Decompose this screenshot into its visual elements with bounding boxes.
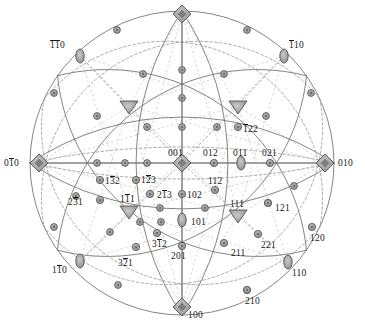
- two-fold-symbol: [237, 156, 245, 170]
- pole-label-201: 201: [171, 251, 186, 261]
- pole-marker-unlabeled-3[interactable]: [308, 90, 315, 97]
- pole-marker-112[interactable]: [211, 186, 218, 193]
- general-pole-core: [135, 179, 138, 182]
- three-fold-symbol: [120, 101, 138, 114]
- pole-marker-unlabeled-10[interactable]: [179, 124, 186, 131]
- miller-digit: 2: [218, 176, 223, 186]
- miller-digit: 0: [255, 296, 260, 306]
- pole-marker-unlabeled-24[interactable]: [291, 183, 298, 190]
- miller-digit: 1: [289, 40, 294, 50]
- pole-marker-021[interactable]: [266, 159, 273, 166]
- pole-marker-unlabeled-18[interactable]: [158, 219, 165, 226]
- pole-marker-unlabeled-9[interactable]: [179, 95, 186, 102]
- pole-marker-120[interactable]: [308, 223, 315, 230]
- general-pole-core: [293, 185, 296, 188]
- pole-marker-unlabeled-2[interactable]: [51, 90, 58, 97]
- general-pole-core: [223, 242, 226, 245]
- pole-marker--1-11[interactable]: [120, 101, 138, 114]
- zone-fan-3-1: [129, 106, 325, 163]
- miller-digit: 2: [146, 175, 151, 185]
- pole-marker-1-11[interactable]: [120, 206, 138, 219]
- pole-marker-201[interactable]: [178, 242, 185, 249]
- pole-marker-1-32[interactable]: [96, 176, 103, 183]
- general-pole-core: [213, 162, 216, 165]
- general-pole-core: [146, 126, 149, 129]
- pole-marker-unlabeled-4[interactable]: [94, 113, 101, 120]
- pole-marker-unlabeled-6[interactable]: [140, 71, 147, 78]
- miller-digit: 1: [241, 248, 246, 258]
- general-pole-core: [96, 115, 99, 118]
- pole-marker-unlabeled-7[interactable]: [221, 71, 228, 78]
- pole-label-102: 102: [187, 190, 202, 200]
- general-pole-core: [116, 29, 119, 32]
- pole-marker-010[interactable]: [316, 154, 334, 172]
- miller-digit: 1: [201, 217, 206, 227]
- miller-digit: 0: [198, 310, 203, 320]
- pole-marker-2-31[interactable]: [96, 196, 103, 203]
- miller-digit: 1: [55, 40, 60, 50]
- miller-digit: 1: [128, 258, 133, 268]
- two-fold-symbol: [280, 49, 288, 63]
- general-pole-core: [156, 232, 159, 235]
- pole-marker-unlabeled-20[interactable]: [107, 229, 114, 236]
- pole-marker-211[interactable]: [220, 239, 227, 246]
- pole-marker-3-21[interactable]: [132, 243, 139, 250]
- pole-label--1-10: 110: [50, 40, 65, 50]
- pole-marker-unlabeled-14[interactable]: [144, 160, 151, 167]
- pole-marker--122[interactable]: [234, 123, 241, 130]
- pole-marker-1-23[interactable]: [132, 176, 139, 183]
- pole-marker-unlabeled-19[interactable]: [51, 224, 58, 231]
- pole-marker-221[interactable]: [254, 230, 261, 237]
- pole-marker-unlabeled-15[interactable]: [94, 160, 101, 167]
- pole-marker-unlabeled-8[interactable]: [179, 67, 186, 74]
- pole-marker-101[interactable]: [178, 213, 186, 227]
- pole-label-011: 011: [233, 148, 248, 158]
- pole-marker-102[interactable]: [178, 190, 185, 197]
- general-pole-core: [269, 162, 272, 165]
- two-fold-symbol: [76, 49, 84, 63]
- pole-marker-unlabeled-12[interactable]: [214, 124, 221, 131]
- general-pole-core: [237, 126, 240, 129]
- miller-digit: 1: [162, 190, 167, 200]
- general-pole-core: [142, 73, 145, 76]
- pole-marker-3-12[interactable]: [153, 229, 160, 236]
- general-pole-core: [246, 289, 249, 292]
- pole-marker-unlabeled-22[interactable]: [115, 282, 122, 289]
- pole-marker-unlabeled-5[interactable]: [263, 113, 270, 120]
- pole-marker-012[interactable]: [210, 159, 217, 166]
- general-pole-core: [124, 162, 127, 165]
- miller-digit: 2: [162, 239, 167, 249]
- miller-digit: 2: [253, 124, 258, 134]
- pole-marker--110[interactable]: [280, 49, 288, 63]
- pole-marker-unlabeled-17[interactable]: [202, 205, 209, 212]
- pole-marker-unlabeled-13[interactable]: [122, 160, 129, 167]
- miller-digit: 0: [62, 265, 67, 275]
- pole-marker-unlabeled-23[interactable]: [244, 287, 251, 294]
- miller-digit: 1: [243, 148, 248, 158]
- zone-fan-1-5: [129, 56, 284, 211]
- pole-marker-011[interactable]: [237, 156, 245, 170]
- pole-marker-unlabeled-11[interactable]: [144, 124, 151, 131]
- pole-marker-unlabeled-0[interactable]: [114, 27, 121, 34]
- general-pole-core: [181, 69, 184, 72]
- pole-marker-unlabeled-1[interactable]: [244, 27, 251, 34]
- pole-marker-1-10[interactable]: [76, 254, 84, 268]
- general-pole-core: [257, 233, 260, 236]
- pole-marker-110[interactable]: [284, 255, 292, 269]
- three-fold-symbol: [229, 101, 247, 114]
- pole-marker-unlabeled-25[interactable]: [265, 200, 272, 207]
- general-pole-core: [265, 115, 268, 118]
- zone-fan-3-0: [39, 106, 129, 163]
- pole-marker-0-10[interactable]: [30, 154, 48, 172]
- pole-marker-unlabeled-16[interactable]: [157, 205, 164, 212]
- pole-marker--111[interactable]: [229, 101, 247, 114]
- pole-label-0-10: 010: [4, 158, 19, 168]
- general-pole-core: [109, 231, 112, 234]
- pole-marker-unlabeled-21[interactable]: [137, 219, 144, 226]
- pole-label-1-23: 123: [141, 175, 156, 185]
- pole-marker-2-13[interactable]: [146, 190, 153, 197]
- pole-marker--1-10[interactable]: [76, 49, 84, 63]
- zone-fan-0-5: [238, 56, 284, 215]
- miller-digit: 2: [123, 258, 128, 268]
- miller-digit: 0: [299, 40, 304, 50]
